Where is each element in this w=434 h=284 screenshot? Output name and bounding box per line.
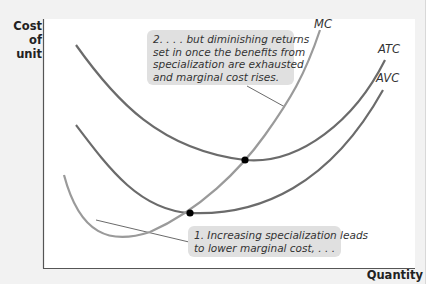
callout-2-line: and marginal cost rises. <box>153 71 288 84</box>
avc-label: AVC <box>376 71 399 85</box>
mc-label: MC <box>314 17 332 31</box>
callout-1-line: 1. Increasing specialization leads <box>194 229 335 242</box>
callout-2-leader <box>247 86 285 107</box>
avc-minimum-dot <box>186 209 193 216</box>
callout-increasing-specialization: 1. Increasing specialization leads to lo… <box>188 226 341 257</box>
callout-2-line: set in once the benefits from <box>153 46 288 59</box>
atc-label: ATC <box>378 42 400 56</box>
callout-2-line: 2. . . . but diminishing returns <box>153 33 288 46</box>
callout-2-line: specialization are exhausted <box>153 58 288 71</box>
atc-minimum-dot <box>241 156 248 163</box>
avc-curve <box>76 90 383 213</box>
callout-1-line: to lower marginal cost, . . . <box>194 242 335 255</box>
callout-diminishing-returns: 2. . . . but diminishing returns set in … <box>147 30 294 85</box>
callout-1-leader <box>96 220 189 242</box>
